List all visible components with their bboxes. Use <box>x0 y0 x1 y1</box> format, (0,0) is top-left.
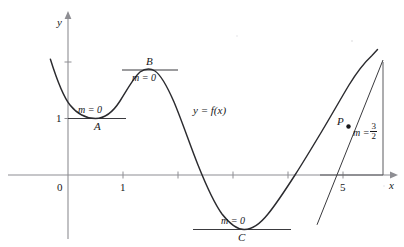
slope-label-a: m = 0 <box>78 105 102 115</box>
x-tick-label-1: 1 <box>120 182 126 193</box>
paper-speck <box>236 35 237 36</box>
x-tick-label-5: 5 <box>340 182 346 193</box>
slope-fraction: 32 <box>370 122 377 142</box>
paper-speck <box>383 185 384 186</box>
slope-label-c: m = 0 <box>221 216 245 226</box>
point-label-a: A <box>94 121 101 132</box>
point-label-c: C <box>238 232 245 243</box>
x-axis-label: x <box>389 180 394 191</box>
point-label-p: P <box>337 116 344 127</box>
slope-label-b: m = 0 <box>132 73 156 83</box>
function-curve <box>50 50 377 230</box>
paper-speck <box>351 40 353 42</box>
function-graph-figure: y x 0 1 5 1 y = f(x) m = 0 A B m = 0 m =… <box>0 0 404 247</box>
function-label: y = f(x) <box>193 105 226 116</box>
y-tick-label-1: 1 <box>56 113 62 124</box>
origin-label: 0 <box>57 182 63 193</box>
y-axis-label: y <box>57 17 62 28</box>
point-p-marker <box>346 124 350 128</box>
y-axis <box>65 11 72 239</box>
slope-fraction-numerator: 3 <box>370 122 377 131</box>
point-label-b: B <box>146 56 153 67</box>
slope-label-p-prefix: m = <box>353 127 369 138</box>
slope-fraction-denominator: 2 <box>370 131 377 141</box>
slope-label-p: m =32 <box>353 122 377 142</box>
